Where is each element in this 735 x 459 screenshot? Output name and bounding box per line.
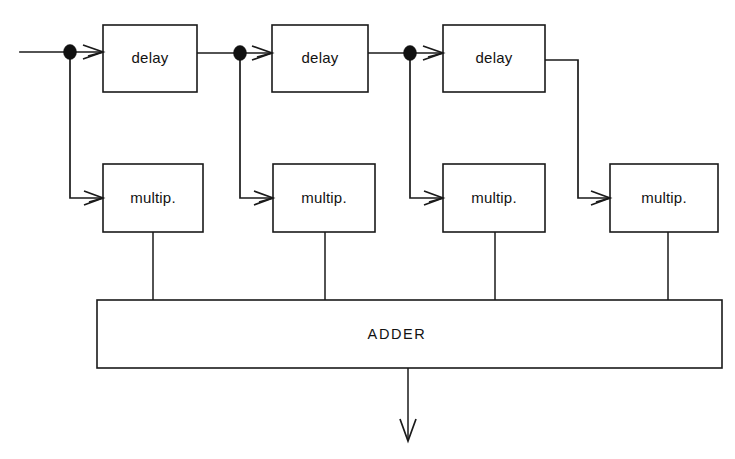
tap-node-0-dot-icon xyxy=(64,45,77,60)
adder-block-label: ADDER xyxy=(368,326,427,342)
multiplier-block-2[interactable]: multip. xyxy=(273,164,375,232)
multiplier-block-4[interactable]: multip. xyxy=(610,164,718,232)
multiplier-block-1[interactable]: multip. xyxy=(103,164,203,232)
tap-line-3 xyxy=(545,60,610,198)
multiplier-block-2-label: multip. xyxy=(301,189,347,206)
output-path xyxy=(400,368,416,441)
diagram-canvas: delay delay delay multip. multip. multip… xyxy=(0,0,735,459)
tap-node-2-dot-icon xyxy=(404,46,417,61)
multiplier-block-3[interactable]: multip. xyxy=(443,164,545,232)
main-signal-path xyxy=(20,52,443,53)
multiplier-block-1-label: multip. xyxy=(130,189,176,206)
multiplier-block-3-label: multip. xyxy=(471,189,517,206)
tap-node-1-dot-icon xyxy=(234,46,247,61)
delay-block-2-label: delay xyxy=(302,49,339,66)
delay-block-3-label: delay xyxy=(476,49,513,66)
tap-line-0 xyxy=(70,52,103,198)
tap-line-1 xyxy=(240,53,273,198)
tap-line-2 xyxy=(410,53,443,198)
delay-block-3[interactable]: delay xyxy=(443,25,545,92)
multiplier-block-4-label: multip. xyxy=(641,189,687,206)
delay-block-1-label: delay xyxy=(132,49,169,66)
delay-block-1[interactable]: delay xyxy=(103,25,197,92)
delay-block-2[interactable]: delay xyxy=(272,25,368,92)
multiplier-to-adder-wires xyxy=(153,232,668,301)
fir-filter-diagram: delay delay delay multip. multip. multip… xyxy=(0,0,735,459)
adder-block[interactable]: ADDER xyxy=(97,300,722,368)
